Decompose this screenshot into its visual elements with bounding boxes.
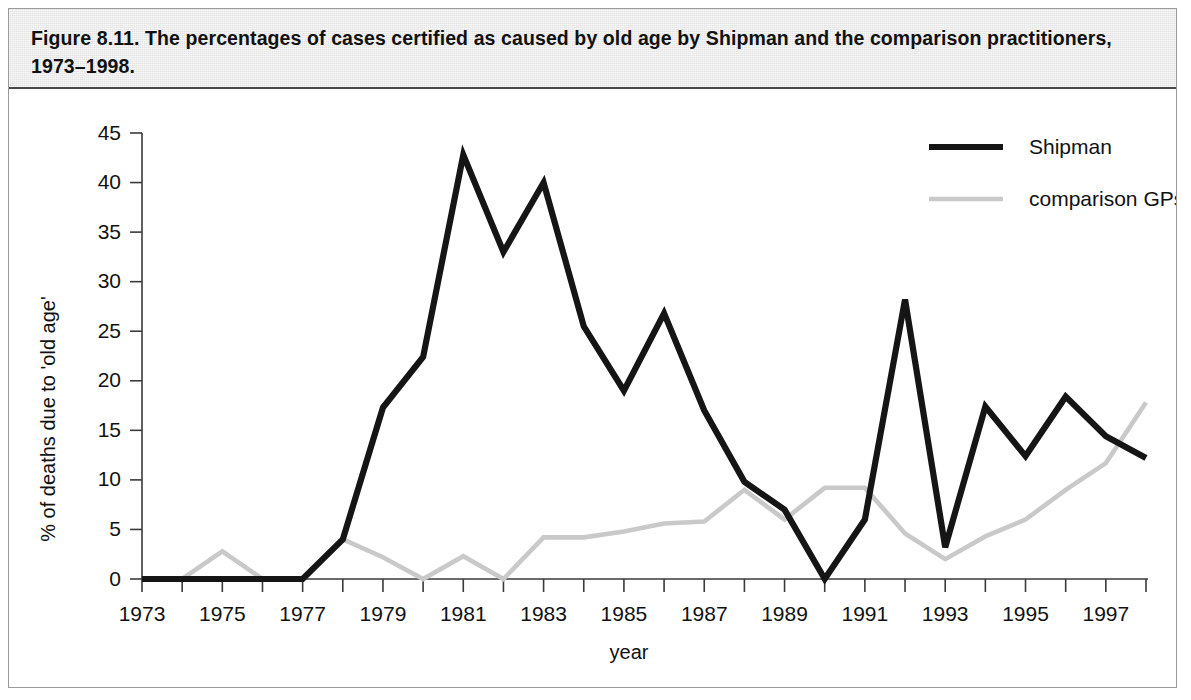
y-tick-label: 25 <box>98 319 121 342</box>
figure-caption: Figure 8.11. The percentages of cases ce… <box>31 25 1146 80</box>
x-axis-title: year <box>610 641 649 663</box>
y-tick-label: 40 <box>98 170 121 193</box>
series-line-shipman <box>142 155 1146 579</box>
y-tick-label: 15 <box>98 418 121 441</box>
y-axis-title: % of deaths due to 'old age' <box>37 296 59 542</box>
chart-plot-area: % of deaths due to 'old age' year 051015… <box>9 89 1176 687</box>
y-axis: 051015202530354045 <box>98 121 142 590</box>
x-tick-label: 1993 <box>922 602 969 625</box>
legend-label: comparison GPs <box>1029 187 1176 210</box>
y-tick-label: 35 <box>98 220 121 243</box>
x-tick-label: 1983 <box>520 602 567 625</box>
series-line-comparison-gps <box>142 403 1146 579</box>
x-tick-label: 1985 <box>601 602 648 625</box>
y-tick-label: 30 <box>98 269 121 292</box>
figure-frame: Figure 8.11. The percentages of cases ce… <box>8 8 1177 688</box>
x-tick-label: 1987 <box>681 602 728 625</box>
x-tick-label: 1977 <box>279 602 326 625</box>
x-tick-label: 1997 <box>1082 602 1129 625</box>
x-tick-label: 1975 <box>199 602 246 625</box>
y-tick-label: 45 <box>98 121 121 144</box>
x-tick-label: 1989 <box>761 602 808 625</box>
y-tick-label: 0 <box>109 567 121 590</box>
y-tick-label: 10 <box>98 467 121 490</box>
series-layer <box>142 155 1146 579</box>
x-tick-label: 1981 <box>440 602 487 625</box>
figure-caption-bar: Figure 8.11. The percentages of cases ce… <box>9 9 1176 89</box>
legend-label: Shipman <box>1029 135 1112 158</box>
x-axis: 1973197519771979198119831985198719891991… <box>119 579 1148 625</box>
y-tick-label: 5 <box>109 517 121 540</box>
x-tick-label: 1995 <box>1002 602 1049 625</box>
chart-legend: Shipmancomparison GPs <box>929 135 1176 210</box>
x-tick-label: 1979 <box>360 602 407 625</box>
x-tick-label: 1991 <box>842 602 889 625</box>
x-tick-label: 1973 <box>119 602 166 625</box>
y-tick-label: 20 <box>98 368 121 391</box>
line-chart: % of deaths due to 'old age' year 051015… <box>9 89 1176 687</box>
